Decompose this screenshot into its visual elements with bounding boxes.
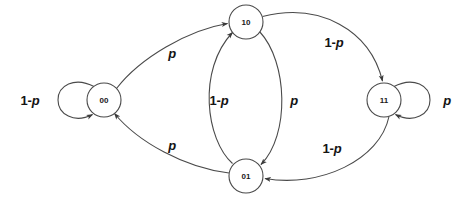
edge-10-to-11 bbox=[263, 13, 383, 81]
edge-label-prefix: 1- bbox=[325, 35, 336, 50]
state-label-01: 01 bbox=[242, 172, 251, 181]
edge-label-variable: p bbox=[32, 93, 40, 108]
edge-label-10-to-11: 1-p bbox=[325, 35, 344, 50]
edge-label-prefix: 1- bbox=[21, 93, 32, 108]
state-node-01[interactable]: 01 bbox=[229, 159, 263, 193]
edge-label-00-to-10: p bbox=[168, 46, 176, 61]
edge-label-prefix: 1- bbox=[323, 141, 334, 156]
edge-label-00-to-00: 1-p bbox=[21, 93, 40, 108]
edge-10-to-01 bbox=[260, 32, 282, 165]
edge-label-variable: p bbox=[221, 93, 229, 108]
edge-label-variable: p bbox=[443, 93, 451, 108]
edge-label-variable: p bbox=[334, 141, 342, 156]
edge-label-variable: p bbox=[336, 35, 344, 50]
state-transition-diagram: 00 10 01 11 1-p p 1-p p 1-p 1-p p p bbox=[0, 0, 471, 202]
edge-label-variable: p bbox=[168, 46, 176, 61]
edge-label-11-to-11: p bbox=[443, 93, 451, 108]
edge-label-01-to-10: 1-p bbox=[210, 93, 229, 108]
state-label-00: 00 bbox=[100, 96, 109, 105]
edge-label-variable: p bbox=[168, 138, 176, 153]
edge-label-prefix: 1- bbox=[210, 93, 221, 108]
state-node-00[interactable]: 00 bbox=[87, 83, 121, 117]
state-label-11: 11 bbox=[380, 96, 389, 105]
state-node-11[interactable]: 11 bbox=[367, 83, 401, 117]
edge-label-10-to-01: p bbox=[290, 93, 298, 108]
state-label-10: 10 bbox=[242, 18, 251, 27]
edge-label-01-to-00: p bbox=[168, 138, 176, 153]
edge-label-11-to-01: 1-p bbox=[323, 141, 342, 156]
edge-label-variable: p bbox=[290, 93, 298, 108]
diagram-canvas: 00 10 01 11 bbox=[0, 0, 471, 202]
state-node-10[interactable]: 10 bbox=[229, 5, 263, 39]
